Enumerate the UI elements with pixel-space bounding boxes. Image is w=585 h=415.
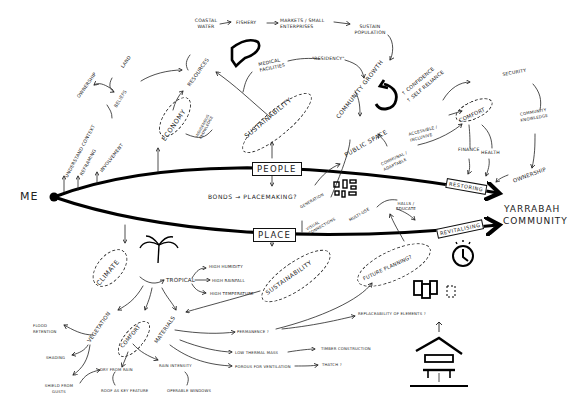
buildings-cluster-icon bbox=[334, 180, 356, 197]
destination-label-line2: COMMUNITY bbox=[503, 216, 568, 226]
replaceability-label: REPLACEABILITY OF ELEMENTS ? bbox=[358, 311, 426, 316]
rain-intensity-label: RAIN INTENSITY bbox=[159, 363, 192, 368]
thatch-label: THATCH ? bbox=[322, 362, 342, 367]
place-box: PLACE bbox=[253, 228, 296, 242]
shield-from-gusts-label: SHIELD FROM GUSTS bbox=[42, 383, 76, 395]
bonds-text: BONDS bbox=[208, 193, 233, 200]
coastal-water-label: COASTAL WATER bbox=[192, 18, 220, 30]
tropical-label: TROPICAL bbox=[166, 277, 195, 283]
sustain-population-label: SUSTAIN POPULATION bbox=[352, 24, 388, 36]
house-section-icon bbox=[410, 322, 468, 386]
finance-label: FINANCE bbox=[458, 147, 480, 152]
bonds-label: BONDS → PLACEMAKING? bbox=[208, 193, 297, 200]
concept-diagram: ME YARRABAH COMMUNITY PEOPLE PLACE RESTO… bbox=[0, 0, 585, 415]
modules-icon bbox=[414, 281, 455, 298]
low-thermal-mass-label: LOW THERMAL MASS bbox=[235, 350, 278, 355]
health-label: HEALTH bbox=[481, 150, 500, 155]
flood-retention-label: FLOOD RETENTION bbox=[33, 323, 59, 335]
dry-from-rain-label: DRY FROM RAIN bbox=[100, 367, 133, 372]
diagram-lines bbox=[0, 0, 585, 415]
residency-label: "RESIDENCY" bbox=[312, 56, 345, 61]
placemaking-text: PLACEMAKING? bbox=[243, 193, 297, 200]
origin-label: ME bbox=[20, 190, 38, 203]
operable-windows-label: OPERABLE WINDOWS bbox=[167, 388, 211, 393]
growth-loop-icon bbox=[376, 80, 396, 109]
high-humidity-label: HIGH HUMIDITY bbox=[209, 264, 243, 269]
fishery-label: FISHERY bbox=[236, 20, 256, 25]
timber-construction-label: TIMBER CONSTRUCTION bbox=[321, 346, 371, 351]
halls-educate-label: HALLS / EDUCATE bbox=[395, 201, 417, 211]
destination-label-line1: YARRABAH bbox=[504, 204, 560, 214]
markets-label: MARKETS / SMALL ENTERPRISES bbox=[280, 18, 336, 30]
clock-icon bbox=[453, 240, 473, 266]
porous-for-ventilation-label: POROUS FOR VENTILATION bbox=[235, 364, 291, 369]
fish-icon bbox=[232, 40, 259, 66]
educate-text: EDUCATE bbox=[396, 206, 416, 211]
permanence-label: PERMANENCE ? bbox=[237, 329, 269, 334]
high-temperature-label: HIGH TEMPERATURE bbox=[210, 291, 254, 296]
shading-label: SHADING bbox=[46, 355, 65, 360]
high-rainfall-label: HIGH RAINFALL bbox=[212, 278, 245, 283]
palm-tree-icon bbox=[140, 236, 178, 263]
people-box: PEOPLE bbox=[252, 162, 302, 176]
roof-as-key-feature-label: ROOF AS KEY FEATURE bbox=[101, 388, 148, 393]
bonds-arrow: → bbox=[235, 193, 241, 200]
